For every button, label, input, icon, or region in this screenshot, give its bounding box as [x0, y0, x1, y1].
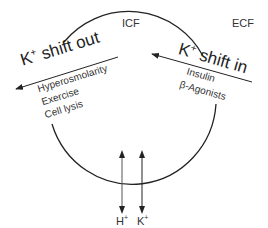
h-ion-label: H+	[116, 214, 128, 227]
cell-membrane-bottom-arc	[52, 104, 216, 184]
ecf-label: ECF	[232, 17, 254, 29]
diagram-graphics	[0, 0, 268, 228]
icf-label: ICF	[122, 17, 140, 29]
k-ion-label: K+	[137, 214, 148, 227]
h-ion-text: H	[116, 215, 124, 227]
h-ion-sup: +	[124, 214, 128, 221]
k-ion-sup: +	[144, 214, 148, 221]
